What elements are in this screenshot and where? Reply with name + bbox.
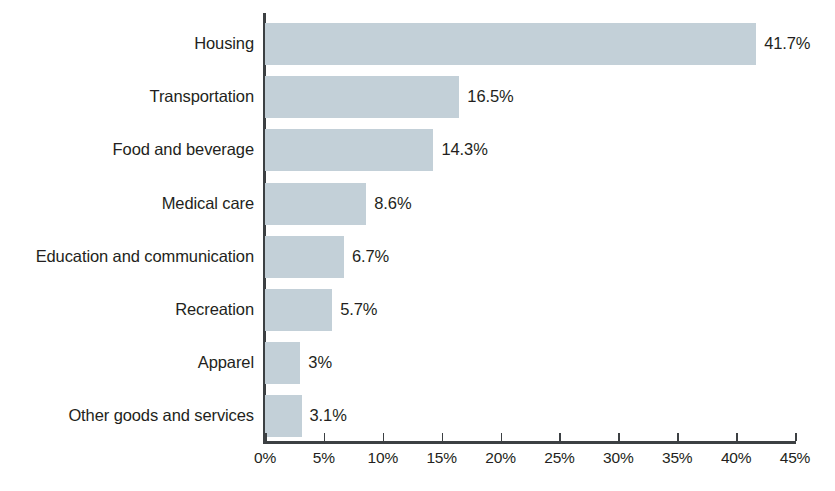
category-label: Recreation	[0, 300, 254, 319]
bar-value-label: 3%	[308, 353, 332, 372]
bar	[265, 289, 332, 331]
category-label: Housing	[0, 34, 254, 53]
x-tick-label: 35%	[662, 449, 692, 467]
category-label: Transportation	[0, 87, 254, 106]
x-tick-label: 5%	[313, 449, 335, 467]
x-tick	[559, 433, 561, 441]
bar	[265, 342, 300, 384]
bar-value-label: 8.6%	[374, 194, 411, 213]
x-tick	[442, 433, 444, 441]
category-label: Other goods and services	[0, 406, 254, 425]
x-tick	[795, 433, 797, 441]
x-tick-label: 15%	[426, 449, 456, 467]
bar	[265, 183, 366, 225]
category-label: Education and communication	[0, 247, 254, 266]
bar-value-label: 6.7%	[352, 247, 389, 266]
plot-area: 41.7%16.5%14.3%8.6%6.7%5.7%3%3.1%	[265, 13, 835, 441]
x-tick	[501, 433, 503, 441]
bar-value-label: 14.3%	[441, 140, 487, 159]
x-axis-line	[263, 441, 796, 444]
x-tick-label: 40%	[721, 449, 751, 467]
x-tick	[736, 433, 738, 441]
x-tick-label: 30%	[603, 449, 633, 467]
category-label: Medical care	[0, 194, 254, 213]
bar-value-label: 5.7%	[340, 300, 377, 319]
bar	[265, 395, 302, 437]
category-label: Apparel	[0, 353, 254, 372]
x-tick	[324, 433, 326, 441]
x-tick-label: 0%	[254, 449, 276, 467]
x-tick	[383, 433, 385, 441]
bar	[265, 23, 756, 65]
bar-chart: HousingTransportationFood and beverageMe…	[0, 0, 835, 491]
bar-value-label: 41.7%	[764, 34, 810, 53]
bar	[265, 76, 459, 118]
category-label: Food and beverage	[0, 140, 254, 159]
x-tick-label: 45%	[780, 449, 810, 467]
category-axis-labels: HousingTransportationFood and beverageMe…	[0, 13, 254, 441]
x-tick	[265, 433, 267, 441]
x-tick-label: 25%	[544, 449, 574, 467]
bar	[265, 129, 433, 171]
x-tick-label: 10%	[368, 449, 398, 467]
x-tick	[677, 433, 679, 441]
bar-value-label: 3.1%	[310, 406, 347, 425]
x-tick-label: 20%	[485, 449, 515, 467]
x-tick	[618, 433, 620, 441]
bar-value-label: 16.5%	[467, 87, 513, 106]
bar	[265, 236, 344, 278]
